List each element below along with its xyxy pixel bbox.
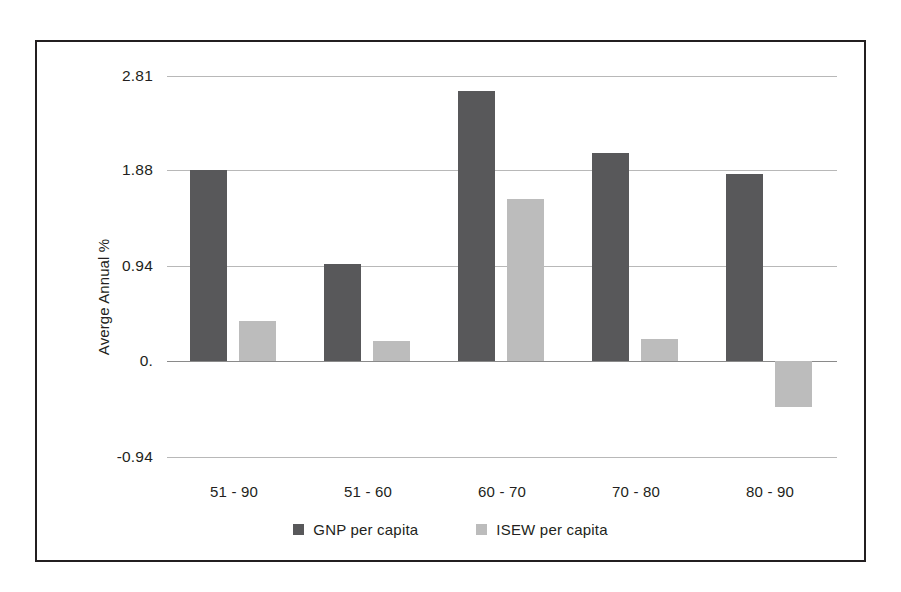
bar-gnp[interactable] (458, 91, 495, 361)
legend-entry[interactable]: ISEW per capita (476, 521, 607, 538)
bar-gnp[interactable] (592, 153, 629, 361)
bar-isew[interactable] (641, 339, 678, 361)
chart-frame: Averge Annual % 2.811.880.940.-0.9451 - … (35, 40, 866, 562)
y-axis-tick-label: -0.94 (117, 448, 153, 466)
gridline (167, 457, 837, 458)
y-axis-tick-label: 1.88 (122, 161, 153, 179)
x-axis-tick-label: 51 - 60 (344, 483, 392, 500)
bar-cluster: 60 - 70 (435, 76, 569, 457)
legend-entry[interactable]: GNP per capita (293, 521, 418, 538)
bar-cluster: 51 - 90 (167, 76, 301, 457)
y-axis-title: Averge Annual % (95, 239, 112, 355)
bar-isew[interactable] (775, 361, 812, 407)
bar-isew[interactable] (239, 321, 276, 362)
bar-isew[interactable] (507, 199, 544, 362)
x-axis-tick-label: 80 - 90 (746, 483, 794, 500)
legend-swatch-icon (293, 524, 304, 535)
plot-area: 2.811.880.940.-0.9451 - 9051 - 6060 - 70… (167, 76, 837, 457)
y-axis-tick-label: 0. (140, 352, 153, 370)
x-axis-tick-label: 51 - 90 (210, 483, 258, 500)
chart-legend: GNP per capitaISEW per capita (37, 521, 864, 538)
bar-cluster: 80 - 90 (703, 76, 837, 457)
legend-label: ISEW per capita (496, 521, 607, 538)
legend-swatch-icon (476, 524, 487, 535)
y-axis-tick-label: 2.81 (122, 67, 153, 85)
y-axis-tick-label: 0.94 (122, 257, 153, 275)
x-axis-tick-label: 60 - 70 (478, 483, 526, 500)
legend-label: GNP per capita (313, 521, 418, 538)
x-axis-tick-label: 70 - 80 (612, 483, 660, 500)
bar-cluster: 51 - 60 (301, 76, 435, 457)
bar-isew[interactable] (373, 341, 410, 361)
bar-gnp[interactable] (324, 264, 361, 362)
bar-gnp[interactable] (190, 170, 227, 361)
bar-cluster: 70 - 80 (569, 76, 703, 457)
bar-gnp[interactable] (726, 174, 763, 362)
